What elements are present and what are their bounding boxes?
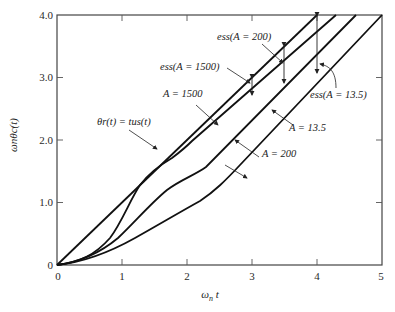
plot-frame <box>57 15 382 265</box>
annotation-ess-a1500: ess(A = 1500) <box>160 61 220 73</box>
x-tick-5: 5 <box>378 270 384 282</box>
x-axis-title: ωn t <box>201 288 220 303</box>
y-tick-labels: 0 1.0 2.0 3.0 4.0 <box>39 9 53 271</box>
annotation-a1500: A = 1500 <box>162 88 203 99</box>
curve-a1500 <box>57 15 336 265</box>
x-tick-4: 4 <box>314 270 320 282</box>
y-tick-0: 0 <box>48 259 54 271</box>
annotation-a135: A = 13.5 <box>288 122 326 133</box>
annotation-ess-a135: ess(A = 13.5) <box>310 89 367 101</box>
y-tick-1: 1.0 <box>39 196 53 208</box>
curve-a200 <box>57 15 356 265</box>
y-axis-title: ωnθc(t) <box>7 118 20 152</box>
curves <box>57 15 382 265</box>
x-tick-2: 2 <box>184 270 190 282</box>
curve-ramp <box>57 15 317 265</box>
x-tick-1: 1 <box>119 270 125 282</box>
y-tick-4: 4.0 <box>39 9 53 21</box>
annotation-ramp: θr(t) = tus(t) <box>97 116 151 128</box>
x-tick-3: 3 <box>249 270 255 282</box>
x-tick-0: 0 <box>55 270 61 282</box>
y-tick-2: 2.0 <box>39 134 53 146</box>
annotation-ess-a200: ess(A = 200) <box>217 31 272 43</box>
x-tick-labels: 0 1 2 3 4 5 <box>55 270 384 282</box>
x-ticks <box>122 15 317 265</box>
y-tick-3: 3.0 <box>39 71 53 83</box>
curve-a135 <box>57 15 382 265</box>
annotation-a200: A = 200 <box>261 148 297 159</box>
ess-arrows <box>252 16 317 95</box>
chart: 0 1 2 3 4 5 0 1.0 2.0 3.0 4.0 ωn t ωnθc(… <box>0 0 395 312</box>
